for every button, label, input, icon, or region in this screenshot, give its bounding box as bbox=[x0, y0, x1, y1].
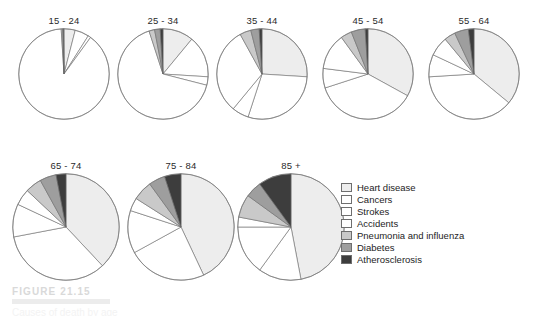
pie-chart-25-34 bbox=[117, 28, 209, 120]
caption-rule bbox=[12, 299, 110, 304]
pie-cell: 75 - 84 bbox=[127, 159, 235, 281]
figure-container: 15 - 2425 - 3435 - 4445 - 5455 - 6465 - … bbox=[0, 0, 554, 317]
figure-number-label: FIGURE 21.15 bbox=[12, 286, 312, 297]
pie-chart-55-64 bbox=[428, 28, 520, 120]
legend-swatch bbox=[341, 219, 352, 228]
pie-title: 65 - 74 bbox=[12, 159, 120, 173]
legend-label: Strokes bbox=[357, 206, 389, 217]
legend-swatch bbox=[341, 255, 352, 264]
pie-chart-45-54 bbox=[322, 28, 414, 120]
pie-title: 15 - 24 bbox=[18, 14, 110, 28]
pie-cell: 45 - 54 bbox=[322, 14, 414, 120]
pie-title: 25 - 34 bbox=[117, 14, 209, 28]
legend-item: Cancers bbox=[341, 193, 546, 205]
pie-cell: 35 - 44 bbox=[216, 14, 308, 120]
figure-caption: FIGURE 21.15 Causes of death by age bbox=[12, 286, 312, 316]
legend-label: Atherosclerosis bbox=[357, 254, 422, 265]
legend-label: Accidents bbox=[357, 218, 398, 229]
legend-label: Diabetes bbox=[357, 242, 395, 253]
pie-title: 45 - 54 bbox=[322, 14, 414, 28]
pie-cell: 65 - 74 bbox=[12, 159, 120, 281]
pie-chart-85+ bbox=[237, 173, 345, 281]
pie-cell: 25 - 34 bbox=[117, 14, 209, 120]
figure-subtitle: Causes of death by age bbox=[12, 307, 312, 316]
pie-chart-35-44 bbox=[216, 28, 308, 120]
legend-item: Heart disease bbox=[341, 181, 546, 193]
legend-swatch bbox=[341, 195, 352, 204]
legend: Heart diseaseCancersStrokesAccidentsPneu… bbox=[341, 181, 546, 266]
pie-title: 55 - 64 bbox=[428, 14, 520, 28]
pie-title: 85 + bbox=[237, 159, 345, 173]
legend-item: Atherosclerosis bbox=[341, 254, 546, 266]
pie-cell: 55 - 64 bbox=[428, 14, 520, 120]
legend-item: Diabetes bbox=[341, 241, 546, 253]
pie-title: 35 - 44 bbox=[216, 14, 308, 28]
pie-chart-75-84 bbox=[127, 173, 235, 281]
legend-label: Heart disease bbox=[357, 182, 416, 193]
legend-swatch bbox=[341, 183, 352, 192]
legend-swatch bbox=[341, 231, 352, 240]
pie-slice bbox=[262, 29, 307, 77]
pie-title: 75 - 84 bbox=[127, 159, 235, 173]
pie-slice bbox=[291, 174, 344, 280]
legend-item: Pneumonia and influenza bbox=[341, 229, 546, 241]
legend-item: Strokes bbox=[341, 205, 546, 217]
pie-chart-65-74 bbox=[12, 173, 120, 281]
pie-cell: 85 + bbox=[237, 159, 345, 281]
pie-cell: 15 - 24 bbox=[18, 14, 110, 120]
legend-swatch bbox=[341, 207, 352, 216]
legend-label: Pneumonia and influenza bbox=[357, 230, 464, 241]
legend-swatch bbox=[341, 243, 352, 252]
legend-label: Cancers bbox=[357, 194, 392, 205]
legend-item: Accidents bbox=[341, 217, 546, 229]
pie-chart-15-24 bbox=[18, 28, 110, 120]
